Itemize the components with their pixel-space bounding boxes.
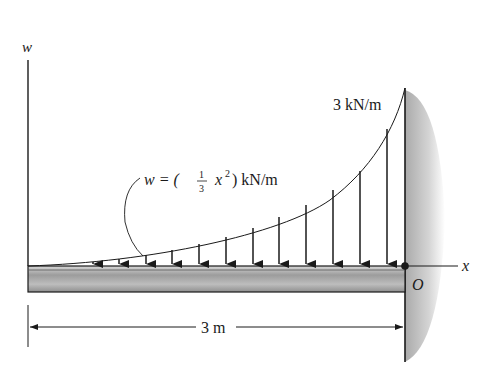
load-equation: w = ( 1 3 x 2 ) kN/m bbox=[144, 168, 278, 194]
origin-label: O bbox=[412, 276, 424, 293]
equation-leader bbox=[125, 178, 143, 256]
w-axis-label: w bbox=[22, 39, 32, 55]
svg-text:3: 3 bbox=[199, 183, 204, 194]
length-label: 3 m bbox=[201, 319, 226, 336]
dimension-3m: 3 m bbox=[28, 305, 403, 347]
beam bbox=[28, 266, 405, 292]
svg-text:) kN/m: ) kN/m bbox=[232, 171, 278, 189]
max-load-label: 3 kN/m bbox=[333, 96, 382, 113]
origin-point bbox=[401, 262, 409, 270]
svg-text:2: 2 bbox=[225, 168, 230, 179]
svg-text:w = (: w = ( bbox=[144, 171, 180, 189]
fixed-wall bbox=[405, 88, 445, 362]
beam-load-diagram: w x O 3 kN/m w = ( 1 3 x 2 ) bbox=[0, 0, 499, 387]
load-arrows bbox=[93, 129, 387, 264]
svg-text:x: x bbox=[214, 171, 222, 188]
svg-text:1: 1 bbox=[199, 169, 204, 180]
x-axis-label: x bbox=[461, 257, 469, 274]
